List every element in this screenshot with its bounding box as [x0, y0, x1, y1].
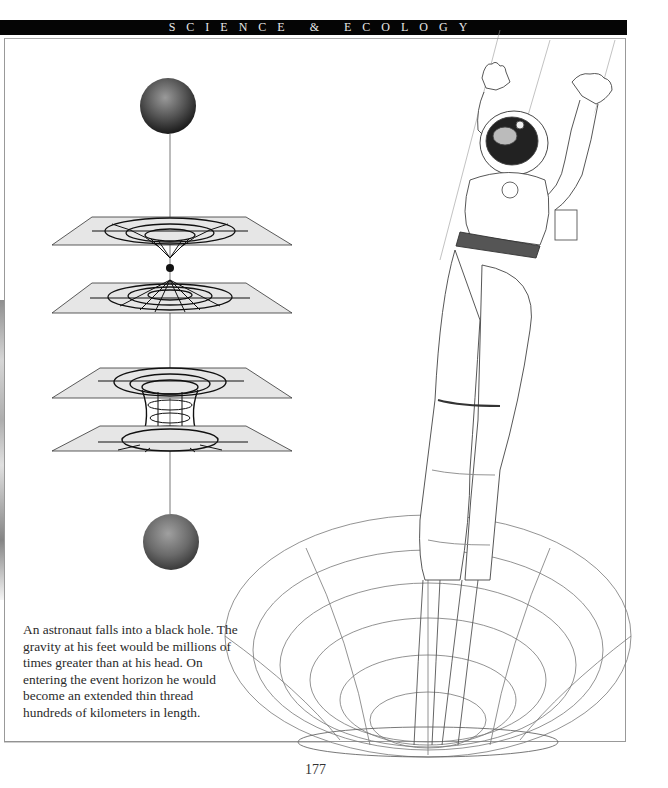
plane-wormhole-top: [52, 368, 292, 398]
plane-white-hole: [52, 280, 292, 313]
plane-wormhole-bottom: [52, 426, 292, 452]
figure-caption: An astronaut falls into a black hole. Th…: [23, 622, 243, 721]
page-number: 177: [305, 762, 326, 778]
plane-black-hole: [52, 217, 292, 258]
top-sphere-icon: [140, 78, 196, 134]
singularity-dot: [166, 264, 174, 272]
bottom-sphere-icon: [143, 514, 199, 570]
